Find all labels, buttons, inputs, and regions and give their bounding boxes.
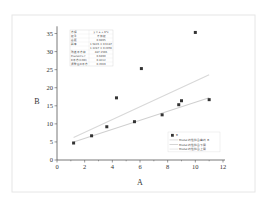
stats-table-value: 不加权 — [97, 34, 106, 38]
stats-table-value: 1.5826 ± 0.6187 — [90, 43, 112, 46]
stats-table-value: 0.9495 — [96, 39, 105, 42]
data-point — [105, 125, 108, 128]
stats-table-label: 调整后R平方 — [71, 62, 88, 66]
y-tick-label: 15 — [47, 102, 54, 109]
stats-table-value: 0.4212 — [96, 59, 105, 62]
x-axis-title: A — [137, 178, 143, 187]
y-tick-label: 10 — [47, 120, 54, 127]
stats-table-value: 487.1596 — [95, 51, 108, 54]
stats-table: 方程y = a + b*x权重不加权截距0.9495斜率1.5826 ± 0.6… — [70, 30, 113, 66]
data-point — [140, 67, 143, 70]
data-point — [133, 120, 136, 123]
x-tick-label: 2 — [83, 163, 86, 170]
data-point — [180, 99, 183, 102]
x-tick-label: 8 — [166, 163, 169, 170]
legend-marker — [171, 134, 174, 137]
data-point — [72, 142, 75, 145]
stats-table-label: 截距 — [71, 38, 77, 42]
data-point — [161, 113, 164, 116]
x-tick-label: 0 — [55, 163, 58, 170]
data-point — [90, 134, 93, 137]
legend: BModel 线性拟合曲线 BModel 线性拟合下限Model 线性拟合上限 — [168, 132, 220, 152]
y-axis-title: B — [34, 97, 39, 106]
data-point — [177, 103, 180, 106]
y-tick-label: 0 — [50, 156, 53, 163]
stats-table-label: 方程 — [71, 30, 77, 34]
data-point — [208, 98, 211, 101]
stats-table-value: y = a + b*x — [93, 31, 109, 34]
legend-label: Model 线性拟合下限 — [179, 143, 206, 147]
y-tick-label: 30 — [47, 48, 54, 55]
y-tick-label: 20 — [47, 84, 54, 91]
stats-table-label: R平方(COD) — [71, 58, 87, 62]
stats-table-value: 0.6490 — [96, 55, 105, 58]
stats-table-label: Pearson's r — [71, 55, 86, 58]
x-tick-label: 10 — [192, 163, 199, 170]
stats-table-value: 1.1287 ± 0.2056 — [90, 47, 112, 50]
y-tick-label: 25 — [47, 66, 54, 73]
stats-table-label: 残差平方和 — [71, 50, 86, 54]
chart-figure: 05101520253035024681012 方程y = a + b*x权重不… — [0, 0, 263, 201]
legend-label: Model 线性拟合曲线 B — [179, 138, 209, 142]
stats-table-label: 权重 — [71, 34, 77, 38]
data-point — [194, 31, 197, 34]
legend-label: Model 线性拟合上限 — [179, 147, 206, 151]
y-tick-label: 5 — [50, 138, 53, 145]
y-tick-label: 35 — [47, 30, 54, 37]
stats-table-value: 0.3569 — [96, 63, 105, 66]
data-point — [115, 96, 118, 99]
x-tick-label: 12 — [220, 163, 227, 170]
legend-label: B — [176, 133, 178, 137]
stats-table-label: 斜率 — [71, 42, 77, 46]
